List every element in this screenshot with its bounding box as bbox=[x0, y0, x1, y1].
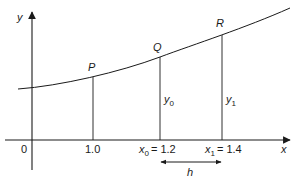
x1-value: = 1.4 bbox=[217, 143, 242, 155]
x1-sub: 1 bbox=[211, 149, 216, 158]
point-label-q: Q bbox=[153, 41, 162, 53]
point-label-r: R bbox=[216, 17, 224, 29]
x-axis-label: x bbox=[280, 143, 287, 155]
y-axis-label: y bbox=[16, 11, 24, 23]
trapezoid-rule-diagram: P Q R y x 0 1.0 x0= 1.2 x1= 1.4 y0 y1 h bbox=[0, 0, 293, 185]
tick-label-x0: x0= 1.2 bbox=[138, 143, 176, 158]
y0-sub: 0 bbox=[170, 99, 175, 108]
point-label-p: P bbox=[88, 61, 96, 73]
ordinate-label-y1: y1 bbox=[225, 93, 237, 108]
x0-value: = 1.2 bbox=[151, 143, 176, 155]
x0-sub: 0 bbox=[145, 149, 150, 158]
ordinate-label-y0: y0 bbox=[163, 93, 175, 108]
tick-label-x1: x1= 1.4 bbox=[204, 143, 242, 158]
tick-label-1-0: 1.0 bbox=[85, 143, 100, 155]
step-size-label: h bbox=[187, 166, 193, 178]
y1-sub: 1 bbox=[232, 99, 237, 108]
origin-label: 0 bbox=[21, 143, 27, 155]
